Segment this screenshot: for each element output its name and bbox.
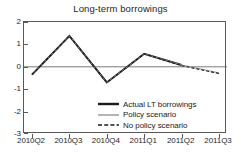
x-tick-label: 2010Q3	[54, 136, 82, 145]
y-tick-label: 0	[4, 61, 21, 70]
legend-item[interactable]: No policy scenario	[98, 120, 223, 131]
y-tick-label: -2	[4, 106, 21, 115]
x-tick-label: 2011Q2	[167, 136, 194, 145]
legend-item[interactable]: Policy scenario	[98, 110, 223, 121]
chart-title: Long-term borrowings	[0, 3, 241, 14]
legend-swatch-icon	[98, 99, 119, 109]
series-line	[32, 36, 219, 83]
x-axis-tick-labels: 2010Q22010Q32010Q42011Q12011Q22011Q3	[23, 136, 226, 150]
legend-label: No policy scenario	[123, 121, 187, 130]
chart-figure: Long-term borrowings 210-1-2-3 2010Q2201…	[0, 0, 241, 154]
legend-item[interactable]: Actual LT borrowings	[98, 99, 223, 110]
legend-label: Policy scenario	[123, 110, 176, 119]
x-tick-label: 2010Q2	[17, 136, 45, 145]
legend-swatch-icon	[98, 110, 119, 120]
series-line	[32, 36, 219, 83]
y-tick-label: 1	[4, 39, 21, 48]
series-line	[32, 36, 182, 83]
legend-swatch-icon	[98, 120, 119, 130]
x-tick-label: 2011Q3	[204, 136, 231, 145]
legend-label: Actual LT borrowings	[123, 100, 196, 109]
y-tick-label: -1	[4, 84, 21, 93]
chart-legend: Actual LT borrowingsPolicy scenarioNo po…	[98, 99, 223, 131]
x-tick-label: 2011Q1	[130, 136, 157, 145]
data-series-group	[32, 36, 219, 83]
x-tick-label: 2010Q4	[92, 136, 120, 145]
y-axis-tick-labels: 210-1-2-3	[0, 21, 21, 133]
y-tick-label: 2	[4, 17, 21, 26]
